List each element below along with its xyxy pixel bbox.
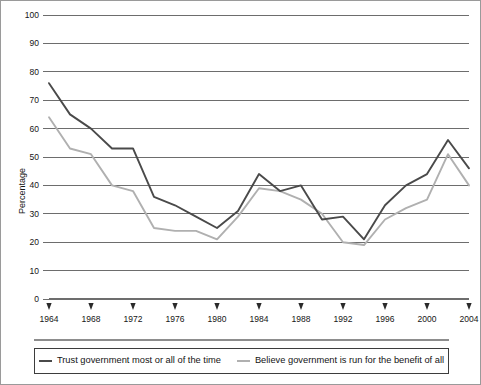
- y-tick-label: 0: [34, 294, 39, 304]
- x-tick-label: 1980: [208, 314, 227, 324]
- legend-swatch-light: [237, 360, 250, 362]
- x-axis-tick-labels: 1964196819721976198019841988199219962000…: [40, 314, 479, 324]
- y-axis-title: Percentage: [17, 168, 27, 214]
- x-tick-label: 1964: [40, 314, 59, 324]
- y-tick-label: 30: [30, 209, 40, 219]
- series-line: [49, 117, 469, 245]
- y-tick-label: 50: [30, 152, 40, 162]
- x-tick-marker: [172, 303, 177, 310]
- legend-item-benefit-of-all: Believe government is run for the benefi…: [237, 356, 444, 365]
- y-tick-label: 90: [30, 38, 40, 48]
- y-tick-label: 20: [30, 237, 40, 247]
- y-axis-tick-labels: 0102030405060708090100: [25, 10, 49, 304]
- y-tick-label: 100: [25, 10, 39, 20]
- x-tick-label: 2000: [418, 314, 437, 324]
- x-tick-marker: [424, 303, 429, 310]
- x-tick-marker: [466, 303, 471, 310]
- x-tick-label: 1988: [292, 314, 311, 324]
- y-tick-label: 40: [30, 180, 40, 190]
- y-tick-label: 10: [30, 266, 40, 276]
- series-line: [49, 83, 469, 239]
- x-tick-marker: [298, 303, 303, 310]
- x-tick-marker: [46, 303, 51, 310]
- x-tick-marker: [340, 303, 345, 310]
- x-tick-marker: [130, 303, 135, 310]
- x-tick-marker: [256, 303, 261, 310]
- legend-label-benefit-of-all: Believe government is run for the benefi…: [255, 356, 444, 365]
- legend-swatch-dark: [39, 360, 52, 362]
- y-tick-label: 80: [30, 67, 40, 77]
- plot-area: 0102030405060708090100 19641968197219761…: [1, 1, 481, 341]
- x-tick-marker: [382, 303, 387, 310]
- y-tick-label: 70: [30, 95, 40, 105]
- x-axis: [46, 299, 471, 310]
- x-tick-label: 1992: [334, 314, 353, 324]
- x-tick-marker: [88, 303, 93, 310]
- legend-item-trust-government: Trust government most or all of the time: [39, 356, 221, 365]
- x-tick-label: 2004: [460, 314, 479, 324]
- x-tick-label: 1984: [250, 314, 269, 324]
- legend-label-trust-government: Trust government most or all of the time: [57, 356, 221, 365]
- legend-top-rule: [34, 339, 449, 341]
- x-tick-label: 1968: [82, 314, 101, 324]
- x-tick-label: 1972: [124, 314, 143, 324]
- data-series: [49, 83, 469, 245]
- x-tick-label: 1976: [166, 314, 185, 324]
- chart-legend: Trust government most or all of the time…: [34, 348, 449, 374]
- y-tick-label: 60: [30, 124, 40, 134]
- gridlines: [49, 15, 469, 271]
- x-tick-label: 1996: [376, 314, 395, 324]
- line-chart-svg: 0102030405060708090100 19641968197219761…: [1, 1, 481, 341]
- x-tick-marker: [214, 303, 219, 310]
- chart-figure: 0102030405060708090100 19641968197219761…: [0, 0, 481, 385]
